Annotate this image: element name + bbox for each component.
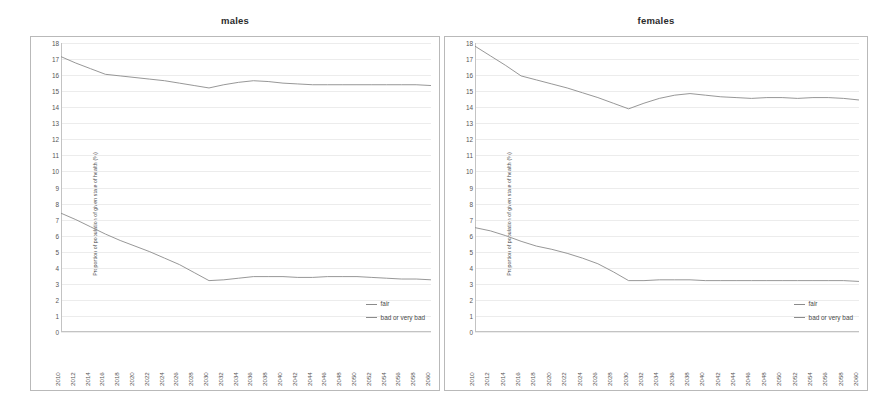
y-tick-label: 10 xyxy=(455,168,473,175)
plot-wrap-females: Proportion of population of given state … xyxy=(445,37,867,390)
x-tick-label: 2050 xyxy=(775,372,782,386)
series-svg-males xyxy=(61,43,431,332)
series-line-bad-or-very-bad xyxy=(475,228,859,282)
panel-title-females: females xyxy=(444,14,868,28)
x-tick-label: 2052 xyxy=(791,372,798,386)
y-tick-label: 3 xyxy=(455,280,473,287)
x-tick-label: 2012 xyxy=(69,372,76,386)
x-tick-label: 2042 xyxy=(291,372,298,386)
legend-swatch-icon xyxy=(794,317,805,318)
plot-area-males xyxy=(61,43,431,332)
chart-panel-females: females Proportion of population of give… xyxy=(444,8,868,400)
plot-area-females xyxy=(475,43,859,332)
x-tick-label: 2054 xyxy=(380,372,387,386)
y-tick-label: 14 xyxy=(41,104,59,111)
y-tick-label: 16 xyxy=(455,72,473,79)
x-tick-labels-females: 2010201220142016201820202022202420262028… xyxy=(475,332,859,388)
y-tick-label: 11 xyxy=(41,152,59,159)
legend-label: fair xyxy=(381,301,390,307)
y-tick-label: 0 xyxy=(455,329,473,336)
legend-swatch-icon xyxy=(794,304,805,305)
y-tick-label: 2 xyxy=(455,296,473,303)
y-tick-label: 1 xyxy=(455,312,473,319)
y-tick-label: 14 xyxy=(455,104,473,111)
x-tick-label: 2028 xyxy=(606,372,613,386)
x-tick-label: 2038 xyxy=(261,372,268,386)
y-tick-labels-females: 0123456789101112131415161718 xyxy=(455,43,473,332)
x-tick-label: 2012 xyxy=(483,372,490,386)
x-tick-label: 2016 xyxy=(514,372,521,386)
legend-swatch-icon xyxy=(366,317,377,318)
y-tick-label: 3 xyxy=(41,280,59,287)
x-tick-label: 2034 xyxy=(652,372,659,386)
x-tick-label: 2048 xyxy=(760,372,767,386)
x-tick-label: 2020 xyxy=(128,372,135,386)
y-tick-label: 16 xyxy=(41,72,59,79)
x-tick-label: 2032 xyxy=(217,372,224,386)
x-tick-label: 2058 xyxy=(837,372,844,386)
x-tick-label: 2022 xyxy=(143,372,150,386)
chart-panel-males: males Proportion of population of given … xyxy=(30,8,440,400)
x-tick-label: 2036 xyxy=(668,372,675,386)
y-tick-label: 5 xyxy=(41,248,59,255)
x-tick-label: 2010 xyxy=(468,372,475,386)
x-tick-label: 2014 xyxy=(84,372,91,386)
y-tick-labels-males: 0123456789101112131415161718 xyxy=(41,43,59,332)
chart-page: males Proportion of population of given … xyxy=(0,0,884,413)
plot-wrap-males: Proportion of population of given state … xyxy=(31,37,439,390)
legend-label: bad or very bad xyxy=(381,315,425,321)
y-tick-label: 8 xyxy=(41,200,59,207)
x-tick-label: 2024 xyxy=(158,372,165,386)
x-tick-label: 2040 xyxy=(276,372,283,386)
y-tick-label: 7 xyxy=(41,216,59,223)
x-tick-label: 2022 xyxy=(560,372,567,386)
chart-box-males: Proportion of population of given state … xyxy=(30,36,440,391)
y-tick-label: 4 xyxy=(455,264,473,271)
x-tick-label: 2056 xyxy=(821,372,828,386)
x-tick-label: 2060 xyxy=(852,372,859,386)
legend-item[interactable]: fair xyxy=(794,301,853,307)
y-tick-label: 15 xyxy=(455,88,473,95)
y-tick-label: 18 xyxy=(455,40,473,47)
y-tick-label: 10 xyxy=(41,168,59,175)
x-tick-label: 2056 xyxy=(394,372,401,386)
x-tick-label: 2018 xyxy=(113,372,120,386)
x-tick-label: 2046 xyxy=(320,372,327,386)
x-tick-label: 2038 xyxy=(683,372,690,386)
y-tick-label: 17 xyxy=(455,56,473,63)
series-line-fair xyxy=(475,46,859,109)
x-tick-label: 2020 xyxy=(545,372,552,386)
x-tick-label: 2054 xyxy=(806,372,813,386)
y-tick-label: 13 xyxy=(41,120,59,127)
x-tick-label: 2010 xyxy=(54,372,61,386)
legend-item[interactable]: bad or very bad xyxy=(794,315,853,321)
x-tick-label: 2046 xyxy=(744,372,751,386)
x-tick-label: 2024 xyxy=(576,372,583,386)
y-tick-label: 8 xyxy=(455,200,473,207)
series-line-fair xyxy=(61,57,431,88)
x-tick-label: 2028 xyxy=(187,372,194,386)
y-tick-label: 9 xyxy=(41,184,59,191)
series-line-bad-or-very-bad xyxy=(61,213,431,280)
x-tick-label: 2030 xyxy=(622,372,629,386)
x-tick-label: 2050 xyxy=(350,372,357,386)
y-tick-label: 2 xyxy=(41,296,59,303)
legend-females: fairbad or very bad xyxy=(794,301,853,328)
y-tick-label: 15 xyxy=(41,88,59,95)
y-tick-label: 6 xyxy=(41,232,59,239)
x-tick-label: 2048 xyxy=(335,372,342,386)
legend-item[interactable]: fair xyxy=(366,301,425,307)
x-tick-label: 2030 xyxy=(202,372,209,386)
x-tick-label: 2014 xyxy=(499,372,506,386)
y-tick-label: 12 xyxy=(41,136,59,143)
legend-label: bad or very bad xyxy=(809,315,853,321)
x-tick-label: 2052 xyxy=(365,372,372,386)
legend-item[interactable]: bad or very bad xyxy=(366,315,425,321)
y-tick-label: 11 xyxy=(455,152,473,159)
x-tick-label: 2040 xyxy=(698,372,705,386)
legend-males: fairbad or very bad xyxy=(366,301,425,328)
x-tick-label: 2058 xyxy=(409,372,416,386)
chart-box-females: Proportion of population of given state … xyxy=(444,36,868,391)
y-tick-label: 5 xyxy=(455,248,473,255)
y-tick-label: 6 xyxy=(455,232,473,239)
